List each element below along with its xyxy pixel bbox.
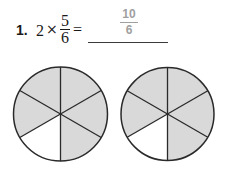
circle-1-sectors <box>14 67 108 161</box>
fraction-circle-1 <box>0 0 231 183</box>
circle-2-sectors <box>121 68 214 161</box>
